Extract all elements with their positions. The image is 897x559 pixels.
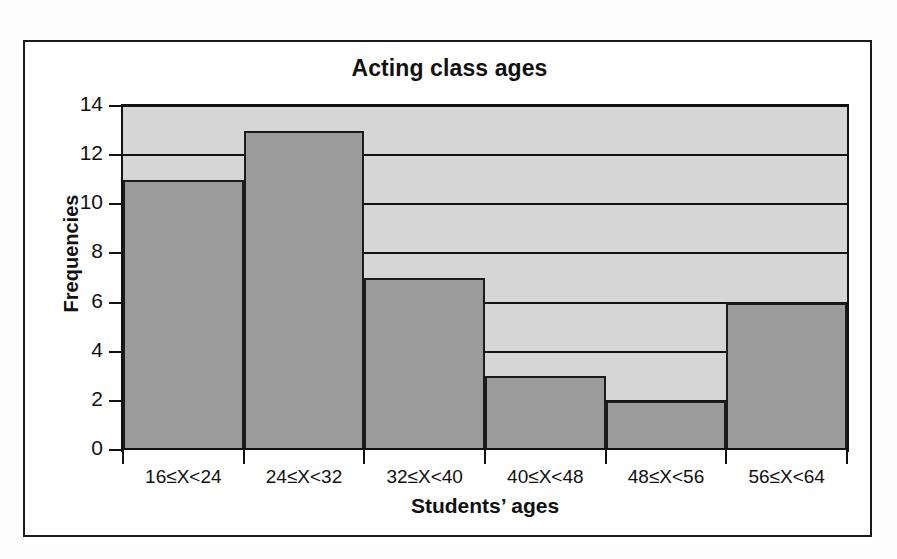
x-tick-0 [122, 450, 124, 464]
x-category-label-5: 48≤X<56 [606, 466, 727, 488]
x-category-label-2: 24≤X<32 [244, 466, 365, 488]
x-category-label-1: 16≤X<24 [123, 466, 244, 488]
bar-3 [364, 278, 485, 450]
plot-area [123, 106, 847, 450]
chart-title: Acting class ages [25, 55, 874, 82]
y-tick-12 [109, 154, 122, 156]
y-tick-6 [109, 302, 122, 304]
y-tick-label-8: 8 [57, 239, 103, 263]
x-category-label-6: 56≤X<64 [726, 466, 847, 488]
x-category-label-4: 40≤X<48 [485, 466, 606, 488]
bar-5 [606, 401, 727, 450]
y-tick-2 [109, 400, 122, 402]
bar-1 [123, 180, 244, 450]
x-tick-5 [725, 450, 727, 464]
x-tick-2 [363, 450, 365, 464]
y-tick-label-10: 10 [57, 190, 103, 214]
x-tick-1 [243, 450, 245, 464]
x-axis-title: Students’ ages [123, 494, 847, 518]
gridline-12 [123, 154, 847, 156]
y-tick-10 [109, 203, 122, 205]
chart-figure-frame: Acting class ages Frequencies 0246810121… [23, 40, 872, 537]
y-tick-label-6: 6 [57, 289, 103, 313]
y-tick-label-14: 14 [57, 92, 103, 116]
x-tick-4 [605, 450, 607, 464]
bar-4 [485, 376, 606, 450]
y-tick-0 [109, 449, 122, 451]
y-tick-label-12: 12 [57, 141, 103, 165]
y-tick-label-0: 0 [57, 436, 103, 460]
x-tick-6 [846, 450, 848, 464]
plot-top-border [121, 104, 849, 106]
plot-right-border [847, 104, 849, 452]
y-tick-label-2: 2 [57, 387, 103, 411]
x-category-label-3: 32≤X<40 [364, 466, 485, 488]
y-tick-label-4: 4 [57, 338, 103, 362]
x-tick-3 [484, 450, 486, 464]
y-tick-14 [109, 105, 122, 107]
bar-2 [244, 131, 365, 450]
y-tick-8 [109, 252, 122, 254]
y-tick-4 [109, 351, 122, 353]
bar-6 [726, 303, 847, 450]
